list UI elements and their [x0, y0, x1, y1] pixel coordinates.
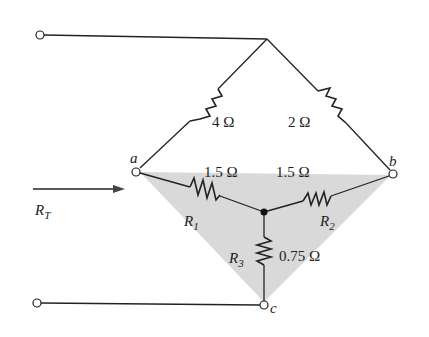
r2-value: 1.5 Ω: [276, 164, 310, 180]
resistor-2-ohm: [267, 39, 390, 170]
node-b-terminal: [389, 170, 397, 178]
bottom-wire: [41, 303, 260, 305]
resistor-2-ohm-value: 2 Ω: [288, 114, 310, 130]
node-a-terminal: [132, 168, 140, 176]
center-junction: [261, 209, 268, 216]
rt-arrow: [33, 185, 125, 193]
rt-label: RT: [34, 202, 51, 221]
resistor-4-ohm-value: 4 Ω: [212, 114, 234, 130]
circuit-diagram: a b c 4 Ω 2 Ω 1.5 Ω 1.5 Ω 0.75 Ω R1 R2 R…: [0, 0, 429, 337]
node-a-label: a: [130, 150, 138, 166]
top-left-terminal: [36, 31, 44, 39]
bottom-left-terminal: [33, 299, 41, 307]
node-c-terminal: [260, 301, 268, 309]
resistor-4-ohm: [140, 39, 267, 168]
node-b-label: b: [389, 153, 397, 169]
r1-value: 1.5 Ω: [204, 164, 238, 180]
top-wire: [44, 35, 267, 39]
r3-value: 0.75 Ω: [279, 248, 320, 264]
node-c-label: c: [270, 300, 277, 316]
